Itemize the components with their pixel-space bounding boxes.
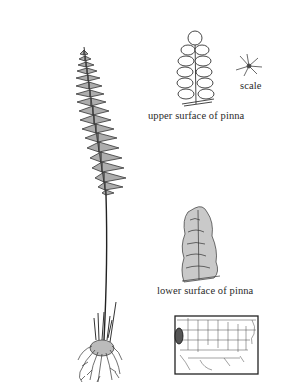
fern-stipe: [104, 195, 107, 340]
distribution-map: [175, 316, 258, 374]
lower-pinna-drawing: [182, 207, 220, 282]
scale-label: scale: [240, 80, 262, 91]
scale-drawing: [236, 54, 262, 76]
lower-pinna-label: lower surface of pinna: [157, 285, 253, 296]
range-highlight: [175, 328, 183, 344]
illustration-canvas: [0, 0, 290, 392]
upper-pinna-drawing: [177, 31, 214, 106]
upper-pinna-label: upper surface of pinna: [148, 110, 244, 121]
fern-roots: [78, 340, 122, 382]
fern-frond: [76, 47, 126, 195]
